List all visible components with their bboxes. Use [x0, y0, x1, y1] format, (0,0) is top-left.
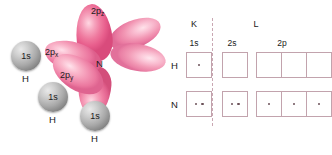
orbital-label-2py-sub: y — [70, 74, 73, 81]
hydrogen-1-orbital-label: 1s — [21, 51, 31, 61]
subshell-header-1s: 1s — [180, 38, 208, 48]
shell-header-l: L — [244, 19, 268, 29]
orbital-label-2pz: 2pz — [91, 6, 104, 16]
shell-divider — [212, 18, 213, 126]
electron-dot — [293, 103, 296, 106]
electron-dot — [237, 103, 240, 106]
orbital-label-2py-base: 2p — [60, 70, 70, 80]
hydrogen-sphere-1: 1s — [11, 41, 41, 71]
orbital-label-2py: 2py — [60, 70, 73, 80]
hydrogen-3-element-label: H — [91, 133, 98, 144]
electron-dot — [201, 103, 204, 106]
orbital-label-2px-sub: x — [55, 51, 58, 58]
orbital-box-h-2p-3[interactable] — [306, 52, 332, 78]
subshell-header-2s: 2s — [218, 38, 246, 48]
electron-dot — [231, 103, 234, 106]
shell-header-k: K — [182, 19, 206, 29]
orbital-box-h-2p-2[interactable] — [281, 52, 307, 78]
orbital-box-n-2p-3[interactable] — [306, 91, 332, 117]
nitrogen-p-lobe-back-lower — [108, 39, 168, 75]
subshell-header-2p: 2p — [268, 38, 296, 48]
row-label-hydrogen: H — [171, 60, 178, 71]
hydrogen-sphere-2: 1s — [38, 82, 68, 112]
orbital-box-h-1s[interactable] — [186, 52, 212, 78]
orbital-box-h-2p-1[interactable] — [256, 52, 282, 78]
orbital-box-n-2p-1[interactable] — [256, 91, 282, 117]
orbital-label-2px: 2px — [45, 47, 58, 57]
hydrogen-1-element-label: H — [22, 73, 29, 84]
orbital-box-h-2s[interactable] — [222, 52, 248, 78]
orbital-label-2px-base: 2p — [45, 47, 55, 57]
electron-dot — [318, 103, 321, 106]
hydrogen-2-orbital-label: 1s — [48, 92, 58, 102]
row-label-nitrogen: N — [171, 99, 178, 110]
hydrogen-sphere-3: 1s — [80, 101, 110, 131]
orbital-label-2pz-sub: z — [101, 10, 104, 17]
hydrogen-2-element-label: H — [49, 114, 56, 125]
hydrogen-3-orbital-label: 1s — [90, 111, 100, 121]
orbital-box-n-1s[interactable] — [186, 91, 212, 117]
orbital-overlap-diagram: 2pz 2px 2py N 1s H 1s H 1s H — [0, 0, 170, 155]
electron-configuration-table: K L 1s 2s 2p H N — [170, 0, 331, 155]
electron-dot — [195, 103, 198, 106]
orbital-label-2pz-base: 2p — [91, 6, 101, 16]
electron-dot — [268, 103, 271, 106]
orbital-box-n-2s[interactable] — [222, 91, 248, 117]
orbital-box-n-2p-2[interactable] — [281, 91, 307, 117]
atom-label-nitrogen: N — [96, 58, 103, 69]
electron-dot — [198, 64, 201, 67]
